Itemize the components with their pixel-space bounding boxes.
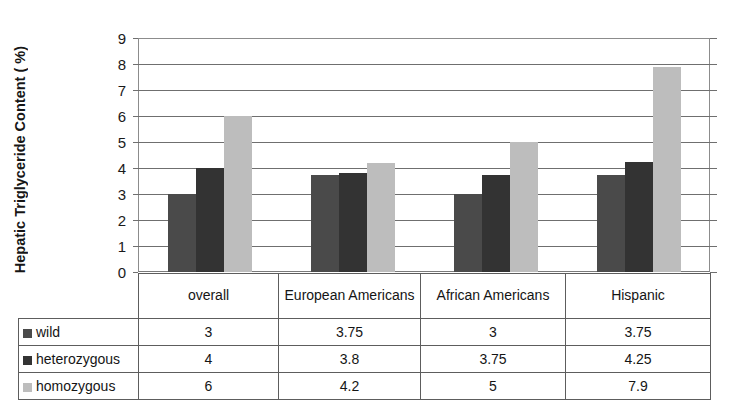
- table-cell-wild-hispanic: 3.75: [566, 319, 711, 346]
- bar-homozygous-african-americans: [510, 142, 538, 272]
- bar-heterozygous-overall: [196, 168, 224, 272]
- table-cell-heterozygous-african-americans: 3.75: [421, 346, 566, 373]
- y-tick-mark-right: [710, 90, 717, 91]
- bar-wild-european-americans: [311, 175, 339, 273]
- category-header-african-americans: African Americans: [421, 274, 566, 319]
- table-header-row: overallEuropean AmericansAfrican America…: [19, 274, 711, 319]
- table-cell-homozygous-european-americans: 4.2: [279, 373, 421, 400]
- bar-homozygous-overall: [224, 116, 252, 272]
- table-cell-wild-african-americans: 3: [421, 319, 566, 346]
- bar-group: [281, 38, 424, 272]
- y-tick-mark-right: [710, 246, 717, 247]
- y-tick-label: 2: [118, 212, 126, 229]
- table-row: wild33.7533.75: [19, 319, 711, 346]
- category-header-hispanic: Hispanic: [566, 274, 711, 319]
- legend-label: wild: [36, 324, 60, 340]
- category-header-overall: overall: [139, 274, 279, 319]
- table-row: heterozygous43.83.754.25: [19, 346, 711, 373]
- bar-wild-overall: [168, 194, 196, 272]
- y-tick-label: 9: [118, 30, 126, 47]
- legend-swatch-icon: [23, 329, 32, 338]
- table-corner-cell: [19, 274, 139, 319]
- bar-wild-hispanic: [597, 175, 625, 273]
- y-tick-mark-right: [710, 272, 717, 273]
- bar-group: [424, 38, 567, 272]
- y-axis-title-text: Hepatic Triglyceride Content ( %): [12, 46, 28, 273]
- y-tick-label: 4: [118, 160, 126, 177]
- y-tick-label: 8: [118, 56, 126, 73]
- legend-label: heterozygous: [36, 351, 120, 367]
- legend-item-heterozygous: heterozygous: [19, 346, 139, 373]
- y-tick-label: 5: [118, 134, 126, 151]
- y-tick-mark-right: [710, 168, 717, 169]
- data-table: overallEuropean AmericansAfrican America…: [18, 273, 711, 400]
- bar-homozygous-european-americans: [367, 163, 395, 272]
- bar-heterozygous-european-americans: [339, 173, 367, 272]
- table-cell-heterozygous-european-americans: 3.8: [279, 346, 421, 373]
- y-tick-mark-right: [710, 64, 717, 65]
- legend-item-homozygous: homozygous: [19, 373, 139, 400]
- y-tick-mark-right: [710, 194, 717, 195]
- table-cell-wild-european-americans: 3.75: [279, 319, 421, 346]
- legend-label: homozygous: [36, 378, 115, 394]
- y-axis-title: Hepatic Triglyceride Content ( %): [0, 0, 40, 320]
- bar-heterozygous-hispanic: [625, 162, 653, 273]
- legend-item-wild: wild: [19, 319, 139, 346]
- bar-group: [138, 38, 281, 272]
- table-cell-wild-overall: 3: [139, 319, 279, 346]
- bar-wild-african-americans: [454, 194, 482, 272]
- table-cell-heterozygous-hispanic: 4.25: [566, 346, 711, 373]
- y-tick-label: 7: [118, 82, 126, 99]
- category-header-european-americans: European Americans: [279, 274, 421, 319]
- y-tick-label: 1: [118, 238, 126, 255]
- plot-area: [138, 38, 710, 272]
- table-cell-heterozygous-overall: 4: [139, 346, 279, 373]
- table-cell-homozygous-african-americans: 5: [421, 373, 566, 400]
- y-axis-tick-labels: 9876543210: [98, 38, 132, 272]
- bar-homozygous-hispanic: [653, 67, 681, 272]
- legend-swatch-icon: [23, 356, 32, 365]
- bar-group: [567, 38, 710, 272]
- table-cell-homozygous-hispanic: 7.9: [566, 373, 711, 400]
- y-tick-label: 3: [118, 186, 126, 203]
- y-tick-mark-right: [710, 38, 717, 39]
- bar-heterozygous-african-americans: [482, 175, 510, 273]
- legend-swatch-icon: [23, 383, 32, 392]
- table-cell-homozygous-overall: 6: [139, 373, 279, 400]
- table-row: homozygous64.257.9: [19, 373, 711, 400]
- y-tick-mark-right: [710, 116, 717, 117]
- y-tick-mark-right: [710, 142, 717, 143]
- y-tick-label: 6: [118, 108, 126, 125]
- y-tick-mark-right: [710, 220, 717, 221]
